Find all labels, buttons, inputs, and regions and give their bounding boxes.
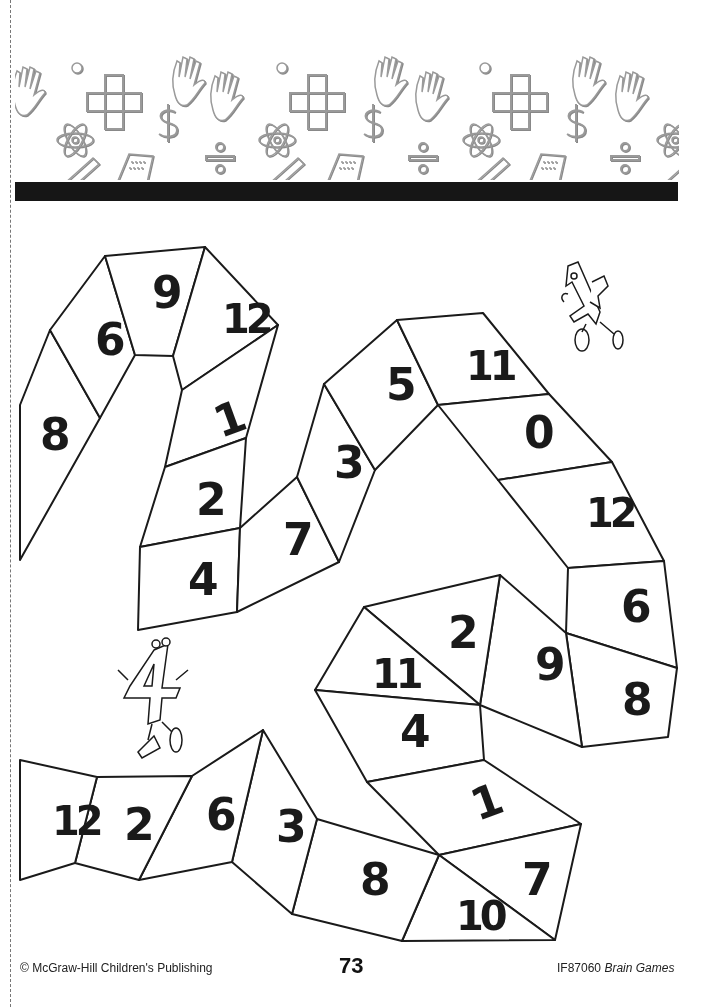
book-title: Brain Games xyxy=(604,961,674,975)
cell-number: 8 xyxy=(360,854,391,905)
cell-number: 4 xyxy=(188,554,219,605)
cell-number: 12 xyxy=(52,798,101,844)
cell-number: 11 xyxy=(466,343,516,389)
cell-number: 7 xyxy=(522,854,553,905)
book-code: IF87060 Brain Games xyxy=(557,961,674,975)
cell-number: 9 xyxy=(535,639,566,690)
number-four-character xyxy=(118,638,188,758)
cell-number: 7 xyxy=(283,514,314,565)
number-one-character xyxy=(562,262,623,351)
cell-shape[interactable] xyxy=(498,462,664,568)
cell-number: 6 xyxy=(621,581,652,632)
cell-number: 3 xyxy=(276,801,307,852)
cell-number: 8 xyxy=(622,674,653,725)
book-code-number: IF87060 xyxy=(557,961,601,975)
cell-number: 10 xyxy=(456,893,506,939)
cell-number: 5 xyxy=(386,359,417,410)
page-number: 73 xyxy=(339,953,363,979)
cell-number: 6 xyxy=(95,314,126,365)
puzzle-cell[interactable]: 12 xyxy=(498,462,664,568)
number-path-puzzle: 869121247351101268921141710836212 xyxy=(0,0,719,1007)
cell-number: 12 xyxy=(586,490,635,536)
cell-number: 2 xyxy=(124,799,155,850)
cell-number: 9 xyxy=(152,267,183,318)
cell-number: 4 xyxy=(400,706,431,757)
cell-number: 6 xyxy=(206,789,237,840)
cell-number: 2 xyxy=(196,474,227,525)
cell-number: 2 xyxy=(448,607,479,658)
copyright-text: © McGraw-Hill Children's Publishing xyxy=(20,961,213,975)
cell-number: 0 xyxy=(524,407,555,458)
cell-number: 11 xyxy=(372,651,422,697)
cell-number: 8 xyxy=(40,409,71,460)
